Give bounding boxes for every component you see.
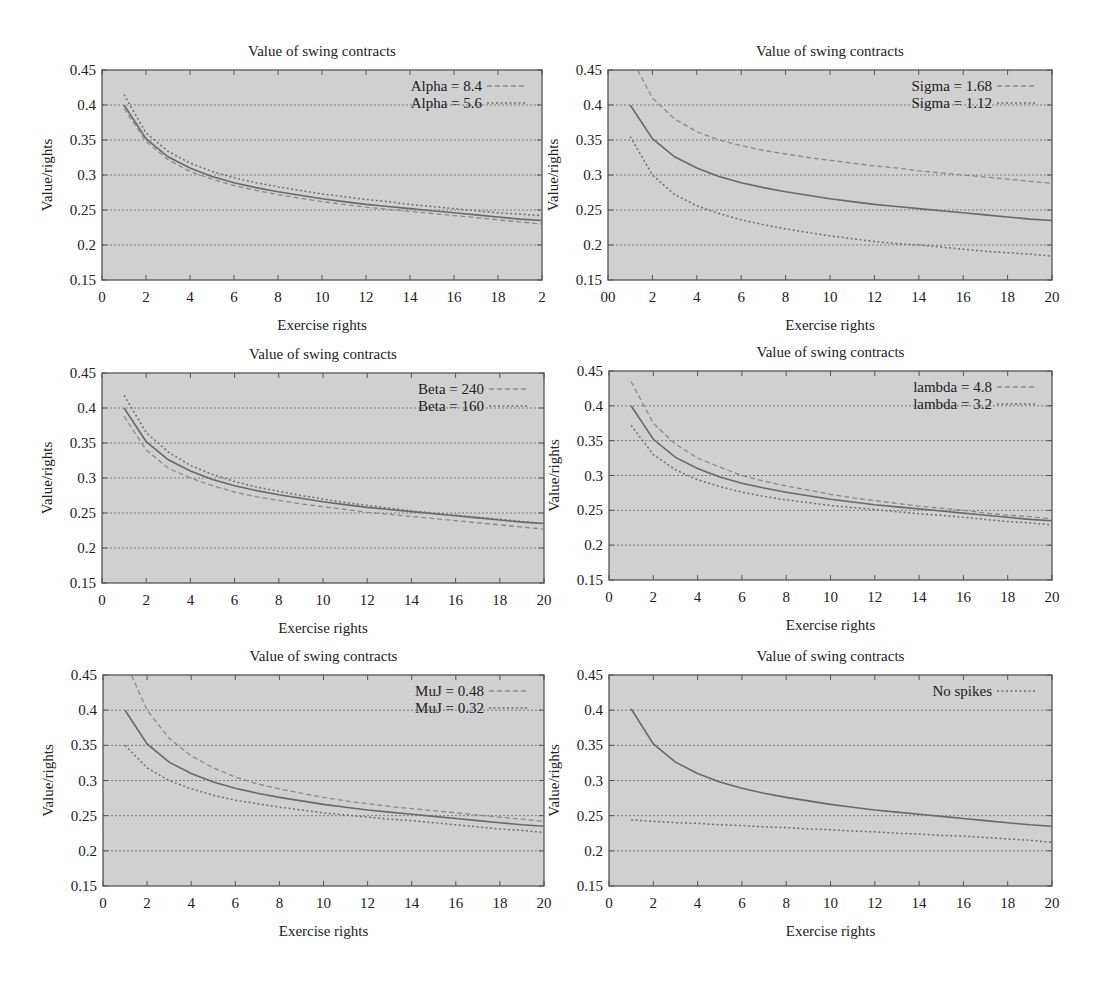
x-tick-label: 2 [142, 289, 150, 305]
x-tick-label: 0 [605, 589, 613, 605]
x-tick-label: 6 [738, 895, 746, 911]
y-axis-label: Value/rights [40, 744, 56, 817]
chart-panel-sigma: 0.150.20.250.30.350.40.45002468101214161… [0, 0, 1098, 981]
y-tick-label: 0.4 [77, 400, 96, 416]
series-group [631, 382, 1052, 526]
legend: Alpha = 8.4Alpha = 5.6 [411, 78, 527, 111]
chart-panel-lambda: 0.150.20.250.30.350.40.45024681012141618… [0, 0, 1098, 981]
series-group [125, 661, 544, 833]
series-line-solid [124, 408, 544, 524]
gridlines [608, 105, 1052, 245]
chart-title: Value of swing contracts [248, 43, 396, 59]
series-group [630, 56, 1052, 256]
plot-area [103, 675, 544, 886]
x-tick-label: 8 [276, 895, 284, 911]
x-tick-label: 20 [1045, 289, 1060, 305]
y-axis: 0.150.20.250.30.350.40.45 [71, 667, 544, 894]
plot-area [608, 70, 1052, 280]
x-axis-label: Exercise rights [278, 620, 368, 636]
series-group [631, 709, 1052, 843]
x-tick-label: 14 [404, 895, 420, 911]
x-tick-label: 2 [538, 289, 546, 305]
plot-area [609, 675, 1052, 886]
x-tick-label: 4 [187, 895, 195, 911]
series-line-solid [631, 709, 1052, 826]
chart-panel-alpha: 0.150.20.250.30.350.40.45024681012141618… [0, 0, 1098, 981]
x-tick-label: 4 [693, 289, 701, 305]
chart-title: Value of swing contracts [757, 648, 905, 664]
y-tick-label: 0.25 [70, 202, 96, 218]
plot-area [609, 371, 1052, 580]
y-tick-label: 0.45 [576, 62, 602, 78]
gridlines [102, 105, 542, 245]
legend: lambda = 4.8lambda = 3.2 [913, 379, 1037, 412]
x-tick-label: 20 [537, 895, 552, 911]
x-tick-label: 10 [823, 289, 838, 305]
y-tick-label: 0.3 [584, 773, 603, 789]
legend-label: No spikes [932, 683, 992, 699]
y-tick-label: 0.2 [78, 843, 97, 859]
series-line-solid [124, 105, 542, 221]
x-axis: 02468101214161820 [605, 675, 1059, 911]
y-tick-label: 0.2 [77, 540, 96, 556]
y-axis: 0.150.20.250.30.350.40.45 [70, 62, 542, 288]
legend-label: lambda = 4.8 [913, 379, 992, 395]
gridlines [609, 406, 1052, 545]
y-tick-label: 0.15 [577, 878, 603, 894]
y-tick-label: 0.35 [70, 132, 96, 148]
series-line-dashed [631, 382, 1052, 519]
series-line-dashed [124, 109, 542, 225]
legend-label: Beta = 160 [418, 398, 484, 414]
chart-panel-muj: 0.150.20.250.30.350.40.45024681012141618… [0, 0, 1098, 981]
x-tick-label: 18 [1000, 289, 1015, 305]
x-tick-label: 12 [360, 592, 375, 608]
x-tick-label: 20 [537, 592, 552, 608]
y-tick-label: 0.35 [70, 435, 96, 451]
x-tick-label: 6 [737, 289, 745, 305]
series-line-solid [630, 105, 1052, 221]
chart-title: Value of swing contracts [249, 346, 397, 362]
series-line-dashed [124, 416, 544, 529]
legend-label: Alpha = 8.4 [411, 78, 483, 94]
x-tick-label: 6 [231, 592, 239, 608]
x-tick-label: 16 [448, 895, 464, 911]
series-line-dotted [124, 395, 544, 523]
x-tick-label: 18 [492, 895, 507, 911]
gridlines [103, 710, 544, 851]
y-tick-label: 0.45 [70, 365, 96, 381]
chart-title: Value of swing contracts [756, 43, 904, 59]
chart-sigma: 0.150.20.250.30.350.40.45002468101214161… [0, 0, 1098, 981]
legend-label: lambda = 3.2 [913, 396, 992, 412]
y-axis: 0.150.20.250.30.350.40.45 [70, 365, 544, 591]
plot-area [102, 70, 542, 280]
x-tick-label: 16 [956, 895, 972, 911]
y-axis-label: Value/rights [39, 139, 55, 212]
y-tick-label: 0.2 [77, 237, 96, 253]
x-tick-label: 4 [694, 589, 702, 605]
y-axis: 0.150.20.250.30.350.40.45 [576, 62, 1052, 288]
series-line-solid [631, 406, 1052, 521]
chart-panel-nospikes: 0.150.20.250.30.350.40.45024681012141618… [0, 0, 1098, 981]
series-line-dotted [124, 95, 542, 216]
y-tick-label: 0.3 [77, 167, 96, 183]
x-axis: 002468101214161820 [601, 70, 1060, 305]
x-tick-label: 12 [359, 289, 374, 305]
y-tick-label: 0.25 [71, 808, 97, 824]
series-line-dotted [631, 425, 1052, 525]
y-axis-label: Value/rights [546, 439, 562, 512]
legend-label: Sigma = 1.68 [911, 78, 992, 94]
legend: No spikes [932, 683, 1037, 699]
y-tick-label: 0.25 [576, 202, 602, 218]
plot-area [102, 373, 544, 583]
x-tick-label: 10 [316, 592, 331, 608]
x-tick-label: 0 [98, 289, 106, 305]
legend-label: MuJ = 0.32 [415, 700, 484, 716]
y-tick-label: 0.15 [71, 878, 97, 894]
legend-label: Beta = 240 [418, 381, 484, 397]
y-tick-label: 0.15 [70, 272, 96, 288]
y-tick-label: 0.25 [577, 808, 603, 824]
y-tick-label: 0.35 [577, 737, 603, 753]
legend: Beta = 240Beta = 160 [418, 381, 529, 414]
x-tick-label: 18 [1000, 895, 1015, 911]
x-axis-label: Exercise rights [279, 923, 369, 939]
